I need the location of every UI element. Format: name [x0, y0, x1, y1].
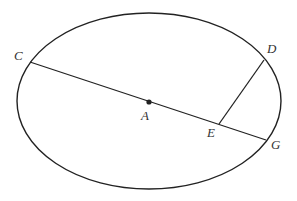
label-a: A — [140, 108, 149, 123]
label-d: D — [266, 41, 277, 56]
label-c: C — [14, 48, 23, 63]
label-g: G — [271, 137, 281, 152]
segment-de — [219, 60, 264, 124]
diagram-canvas: C D A E G — [0, 0, 297, 201]
center-point-a — [146, 99, 151, 104]
ellipse-diagram: C D A E G — [0, 0, 297, 201]
label-e: E — [206, 125, 215, 140]
